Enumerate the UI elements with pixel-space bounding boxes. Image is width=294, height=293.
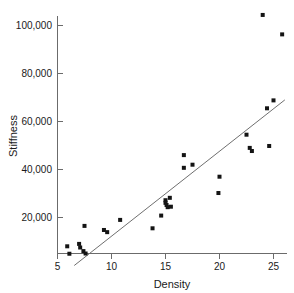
- data-point: [67, 252, 71, 256]
- data-point: [84, 252, 88, 256]
- data-point: [261, 13, 265, 17]
- data-point: [159, 214, 163, 218]
- data-point: [118, 218, 122, 222]
- y-tick-label: 100,000: [16, 20, 53, 31]
- data-points-layer: [65, 13, 284, 256]
- data-point: [250, 149, 254, 153]
- data-point: [169, 205, 173, 209]
- y-axis-ticks: 100,000 80,000 60,000 40,000 20,000: [16, 20, 63, 223]
- data-point: [168, 196, 172, 200]
- regression-line-layer: [74, 100, 285, 266]
- data-point: [151, 226, 155, 230]
- data-point: [272, 98, 276, 102]
- x-tick-label: 10: [106, 261, 118, 272]
- data-point: [77, 242, 81, 246]
- x-tick-label: 5: [55, 261, 61, 272]
- data-point: [182, 166, 186, 170]
- regression-line: [74, 100, 285, 266]
- x-tick-label: 25: [268, 261, 280, 272]
- scatter-plot-figure: Stiffness Density 100,000 80,000 60,000 …: [0, 0, 294, 293]
- y-tick-label: 60,000: [21, 116, 52, 127]
- data-point: [105, 230, 109, 234]
- y-tick-label: 80,000: [21, 68, 52, 79]
- data-point: [280, 32, 284, 36]
- data-point: [78, 246, 82, 250]
- data-point: [216, 191, 220, 195]
- chart-canvas: Stiffness Density 100,000 80,000 60,000 …: [0, 0, 294, 293]
- data-point: [191, 163, 195, 167]
- y-tick-label: 20,000: [21, 212, 52, 223]
- data-point: [218, 175, 222, 179]
- data-point: [265, 106, 269, 110]
- data-point: [182, 153, 186, 157]
- y-tick-label: 40,000: [21, 164, 52, 175]
- data-point: [267, 144, 271, 148]
- y-axis-label: Stiffness: [7, 115, 19, 157]
- data-point: [83, 224, 87, 228]
- x-axis-label: Density: [154, 278, 191, 290]
- data-point: [65, 244, 69, 248]
- data-point: [245, 133, 249, 137]
- x-tick-label: 15: [160, 261, 172, 272]
- x-axis-ticks: 5 10 15 20 25: [55, 254, 280, 273]
- x-tick-label: 20: [214, 261, 226, 272]
